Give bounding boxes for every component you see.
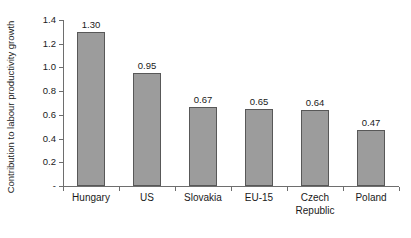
y-axis-ticks: 1.41.21.00.80.60.40.2- [0,0,63,238]
category-label: Slovakia [175,192,231,205]
y-tick-label-text: 0.8 [34,86,56,96]
x-tick-mark [63,187,64,191]
category-label-line: EU-15 [231,192,287,205]
category-label: US [119,192,175,205]
bar-value-label: 0.47 [346,117,396,128]
x-tick-mark [231,187,232,191]
category-label: Hungary [63,192,119,205]
bar [77,32,105,186]
x-tick-mark [175,187,176,191]
y-tick-label-text: 1.2 [34,39,56,49]
bar-value-label: 1.30 [66,19,116,30]
bar-value-label: 0.64 [290,97,340,108]
bar-value-label: 0.65 [234,96,284,107]
x-tick-mark [119,187,120,191]
x-tick-mark [343,187,344,191]
category-label-line: Poland [343,192,399,205]
y-tick-label-text: 0.6 [34,110,56,120]
y-tick-label-text: 1.0 [34,62,56,72]
y-axis-line [63,20,64,187]
category-label: EU-15 [231,192,287,205]
bar [133,73,161,186]
bar-value-label: 0.67 [178,94,228,105]
category-label-line: US [119,192,175,205]
y-tick-label-text: - [34,181,56,191]
x-tick-mark [287,187,288,191]
bar [301,110,329,186]
category-label: CzechRepublic [287,192,343,217]
category-label: Poland [343,192,399,205]
bar [357,130,385,186]
bar [189,107,217,186]
y-tick-label-text: 0.2 [34,157,56,167]
category-label-line: Czech [287,192,343,205]
category-label-line: Slovakia [175,192,231,205]
bar [245,109,273,186]
y-tick-label-text: 1.4 [34,15,56,25]
x-tick-mark [399,187,400,191]
bar-chart: Contribution to labour productivity grow… [0,0,411,238]
category-label-line: Hungary [63,192,119,205]
category-label-line: Republic [287,205,343,218]
bar-value-label: 0.95 [122,60,172,71]
y-tick-label-text: 0.4 [34,134,56,144]
